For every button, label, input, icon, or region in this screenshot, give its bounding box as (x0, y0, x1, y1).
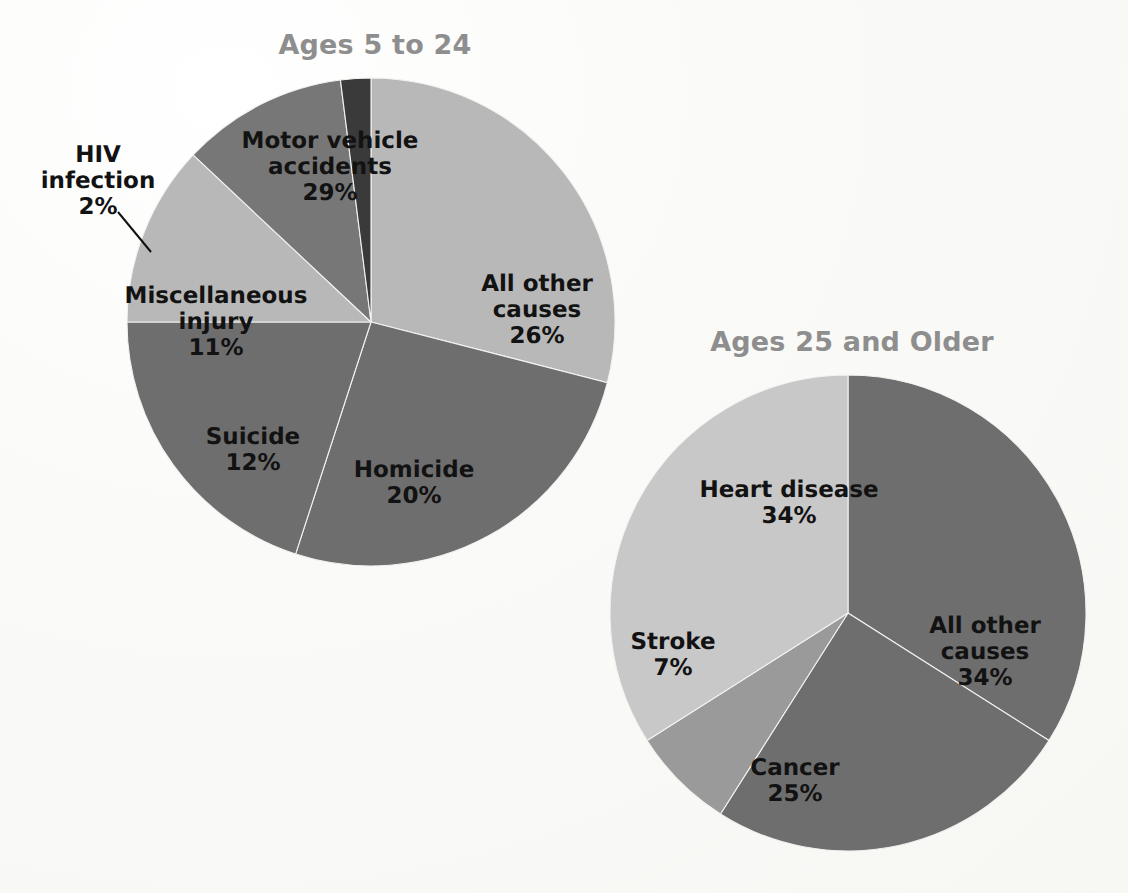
slice-label-name-line: Miscellaneous (125, 283, 308, 309)
slice-label-ages-5-to-24-all-other-causes: All othercauses26% (481, 271, 593, 350)
slice-label-ages-25-and-older-all-other-causes: All othercauses34% (929, 613, 1041, 692)
slice-label-percent: 25% (750, 781, 839, 807)
slice-label-percent: 34% (929, 665, 1041, 691)
slice-label-percent: 11% (125, 335, 308, 361)
slice-label-ages-5-to-24-motor-vehicle-accidents: Motor vehicleaccidents29% (242, 128, 419, 207)
chart-title-ages-5-to-24: Ages 5 to 24 (278, 29, 471, 60)
slice-label-ages-25-and-older-heart-disease: Heart disease34% (699, 477, 878, 529)
slice-label-name-line: Motor vehicle (242, 128, 419, 154)
slice-label-name-line: injury (125, 309, 308, 335)
slice-label-name-line: HIV (41, 142, 156, 168)
slice-label-name-line: Homicide (354, 457, 474, 483)
slice-label-name-line: causes (929, 639, 1041, 665)
slice-label-percent: 2% (41, 194, 156, 220)
slice-label-percent: 29% (242, 180, 419, 206)
pie-chart-graphics (0, 0, 1128, 893)
slice-label-name-line: Stroke (631, 629, 716, 655)
slice-label-name-line: accidents (242, 154, 419, 180)
chart-title-ages-25-and-older: Ages 25 and Older (710, 326, 994, 357)
slice-label-ages-5-to-24-homicide: Homicide20% (354, 457, 474, 509)
slice-label-name-line: All other (929, 613, 1041, 639)
slice-label-name-line: Suicide (206, 424, 300, 450)
slice-label-percent: 12% (206, 450, 300, 476)
slice-label-ages-25-and-older-stroke: Stroke7% (631, 629, 716, 681)
slice-label-percent: 34% (699, 503, 878, 529)
slice-label-name-line: infection (41, 168, 156, 194)
figure-canvas: Ages 5 to 24 Ages 25 and Older Motor veh… (0, 0, 1128, 893)
slice-label-ages-5-to-24-suicide: Suicide12% (206, 424, 300, 476)
slice-label-name-line: Cancer (750, 755, 839, 781)
slice-label-ages-5-to-24-hiv-infection: HIVinfection2% (41, 142, 156, 221)
slice-label-ages-25-and-older-cancer: Cancer25% (750, 755, 839, 807)
slice-label-name-line: Heart disease (699, 477, 878, 503)
slice-label-name-line: All other (481, 271, 593, 297)
slice-label-percent: 26% (481, 323, 593, 349)
slice-label-name-line: causes (481, 297, 593, 323)
slice-label-ages-5-to-24-miscellaneous-injury: Miscellaneousinjury11% (125, 283, 308, 362)
slice-label-percent: 20% (354, 483, 474, 509)
slice-label-percent: 7% (631, 655, 716, 681)
